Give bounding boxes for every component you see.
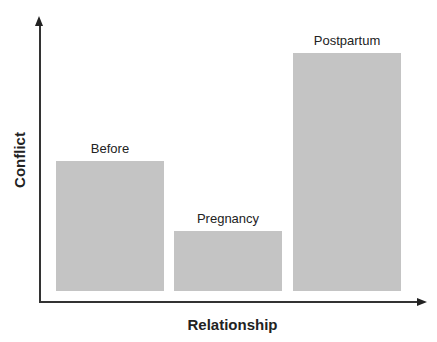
bar-label: Postpartum: [293, 33, 401, 48]
y-axis-arrow-icon: [35, 16, 43, 26]
bar-before: [56, 161, 164, 291]
y-axis-title: Conflict: [11, 132, 28, 188]
bar-label: Before: [56, 141, 164, 156]
bar-postpartum: [293, 53, 401, 291]
bar-pregnancy: [174, 231, 282, 291]
x-axis-arrow-icon: [417, 298, 427, 306]
y-axis-line: [39, 24, 41, 302]
x-axis-title: Relationship: [39, 316, 426, 333]
bar-chart: Conflict Relationship BeforePregnancyPos…: [0, 0, 437, 342]
x-axis-line: [39, 301, 420, 303]
bar-label: Pregnancy: [174, 211, 282, 226]
